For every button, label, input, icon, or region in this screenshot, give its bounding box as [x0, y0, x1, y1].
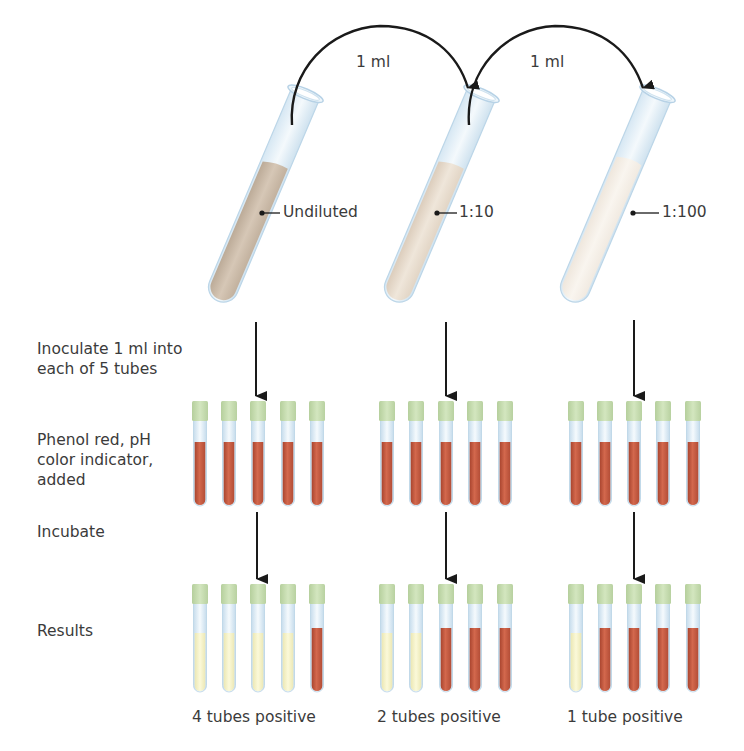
inoculated-tube [497, 401, 513, 506]
tube-cap [497, 584, 513, 604]
tube-cap [655, 401, 671, 421]
tube-cap [221, 584, 237, 604]
inoculated-tube [309, 401, 325, 506]
result-tube-yellow [408, 584, 424, 692]
step-phenol-line3: added [37, 471, 86, 490]
inoculated-tube [655, 401, 671, 506]
result-tube-red [685, 584, 701, 692]
inoculated-tube [685, 401, 701, 506]
tube-cap [250, 584, 266, 604]
inoculated-tube [379, 401, 395, 506]
dilution-tube-1-10 [376, 82, 501, 309]
tube-cap [467, 584, 483, 604]
transfer-arrow-1 [292, 26, 468, 125]
inoculated-tube [192, 401, 208, 506]
tube-cap [597, 584, 613, 604]
step-incubate: Incubate [37, 523, 105, 542]
result-tube-yellow [250, 584, 266, 692]
dilution-label-1-100: 1:100 [662, 203, 707, 222]
tube-cap [655, 584, 671, 604]
result-tube-yellow [192, 584, 208, 692]
step-phenol-line2: color indicator, [37, 451, 153, 470]
tube-cap [597, 401, 613, 421]
down-arrows-inoculate [256, 320, 634, 396]
tube-cap [685, 584, 701, 604]
step-results: Results [37, 622, 93, 641]
step-inoculate-line2: each of 5 tubes [37, 360, 157, 379]
transfer-label-2: 1 ml [530, 53, 564, 72]
tube-cap [379, 401, 395, 421]
tube-cap [379, 584, 395, 604]
dilution-label-1-10: 1:10 [459, 203, 494, 222]
dilution-tube-1-100 [552, 82, 677, 309]
dilution-label-undiluted: Undiluted [283, 203, 358, 222]
result-tube-red [497, 584, 513, 692]
result-tube-yellow [568, 584, 584, 692]
down-arrows-incubate [257, 512, 634, 579]
tube-cap [685, 401, 701, 421]
inoculated-tube [280, 401, 296, 506]
inoculated-tube [438, 401, 454, 506]
transfer-arrow-2 [469, 26, 643, 125]
inoculated-tube [221, 401, 237, 506]
inoculated-tubes-row [192, 401, 701, 506]
result-tube-red [655, 584, 671, 692]
inoculated-tube [467, 401, 483, 506]
result-tube-yellow [221, 584, 237, 692]
tube-cap [309, 584, 325, 604]
transfer-label-1: 1 ml [356, 53, 390, 72]
tube-cap [280, 584, 296, 604]
tube-cap [467, 401, 483, 421]
result-tube-red [309, 584, 325, 692]
tube-cap [192, 401, 208, 421]
inoculated-tube [597, 401, 613, 506]
result-tube-red [597, 584, 613, 692]
result-label-group-1: 4 tubes positive [192, 708, 316, 727]
step-inoculate-line1: Inoculate 1 ml into [37, 340, 182, 359]
tube-cap [568, 584, 584, 604]
tube-cap [250, 401, 266, 421]
inoculated-tube [626, 401, 642, 506]
inoculated-tube [408, 401, 424, 506]
tube-cap [438, 584, 454, 604]
inoculated-tube [568, 401, 584, 506]
tube-cap [626, 584, 642, 604]
inoculated-tube [250, 401, 266, 506]
result-tubes-row [192, 584, 701, 692]
tube-cap [497, 401, 513, 421]
tube-cap [626, 401, 642, 421]
result-tube-red [467, 584, 483, 692]
result-label-group-3: 1 tube positive [567, 708, 683, 727]
result-tube-yellow [280, 584, 296, 692]
step-phenol-line1: Phenol red, pH [37, 431, 151, 450]
result-tube-red [626, 584, 642, 692]
result-label-group-2: 2 tubes positive [377, 708, 501, 727]
tube-cap [438, 401, 454, 421]
tube-cap [221, 401, 237, 421]
result-tube-yellow [379, 584, 395, 692]
tube-cap [280, 401, 296, 421]
tube-cap [408, 401, 424, 421]
tube-cap [408, 584, 424, 604]
tube-cap [568, 401, 584, 421]
result-tube-red [438, 584, 454, 692]
tube-cap [309, 401, 325, 421]
dilution-tube-undiluted [200, 82, 325, 309]
tube-cap [192, 584, 208, 604]
